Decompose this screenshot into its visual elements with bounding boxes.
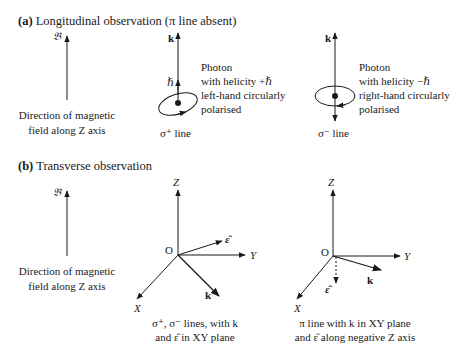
field-symbol-b: 𝔅 [53,186,61,199]
z-label-pi: Z [328,176,334,189]
sigma-minus-desc-3: right-hand circularly [359,89,450,102]
k-label-sigma-minus: k [325,32,331,45]
eps-label-sigma: ε̂ [225,233,230,246]
k-label-pi: k [367,274,373,287]
y-label-pi: Y [404,250,410,263]
k-label-sigma-plus: k [168,32,174,45]
section-b-title: (b) Transverse observation [18,160,152,173]
field-caption-a-1: Direction of magnetic [12,109,122,122]
eps-label-pi: ε̂ [325,283,330,296]
field-caption-b-1: Direction of magnetic [12,265,122,278]
y-label-sigma: Y [250,249,256,262]
field-caption-b-2: field along Z axis [12,280,122,293]
photon-dot-minus [332,93,338,99]
x-label-sigma: X [134,302,141,315]
x-label-pi: X [294,302,301,315]
section-a-label: (a) [18,14,33,28]
field-symbol-a: 𝔅 [53,30,61,43]
sigma-caption-2: and ε̂ in XY plane [130,331,260,344]
diagram-canvas [0,0,457,353]
z-label-sigma: Z [173,176,179,189]
sigma-plus-desc-2: with helicity +ℏ [201,75,272,88]
k-label-sigma: k [205,289,211,302]
photon-dot-plus [175,100,181,106]
pi-caption-1: π line with k in XY plane [280,317,430,330]
k-arrow-sigma [178,255,219,296]
sigma-minus-desc-1: Photon [359,61,390,74]
section-a-title: (a) Longitudinal observation (π line abs… [18,15,236,28]
k-arrow-pi [333,256,381,270]
section-b-label: (b) [18,159,33,173]
rotation-arrow-minus [337,105,345,106]
section-a-title-text: Longitudinal observation (π line absent) [36,14,237,28]
eps-arrow-sigma [178,241,222,255]
sigma-minus-desc-2: with helicity −ℏ [359,75,430,88]
origin-label-pi: O [321,246,329,259]
sigma-plus-desc-3: left-hand circularly [201,89,286,102]
sigma-plus-line-label: σ⁺ line [160,127,191,140]
x-axis-sigma [137,255,178,299]
sigma-plus-desc-4: polarised [201,103,241,116]
origin-label-sigma: O [165,244,173,257]
field-caption-a-2: field along Z axis [12,124,122,137]
hbar-label: ℏ [167,76,174,89]
sigma-caption-1: σ⁺, σ⁻ lines, with k [130,317,260,330]
sigma-minus-line-label: σ⁻ line [318,127,349,140]
sigma-plus-desc-1: Photon [201,61,232,74]
sigma-minus-desc-4: polarised [359,103,399,116]
pi-caption-2: and ε̂ along negative Z axis [280,331,430,344]
section-b-title-text: Transverse observation [36,159,152,173]
